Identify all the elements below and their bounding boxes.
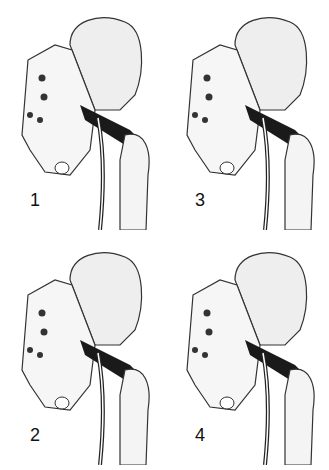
hip-illustration-panel: 1 <box>0 0 160 230</box>
hip-illustration-panel: 4 <box>165 235 325 465</box>
panel-number-label: 1 <box>30 190 40 211</box>
pelvis-drawing <box>165 235 325 465</box>
hip-illustration-panel: 3 <box>165 0 325 230</box>
panel-number-label: 3 <box>195 190 205 211</box>
pelvis-drawing <box>0 0 160 230</box>
hip-illustration-panel: 2 <box>0 235 160 465</box>
pelvis-drawing <box>0 235 160 465</box>
panel-number-label: 2 <box>30 425 40 446</box>
panel-number-label: 4 <box>195 425 205 446</box>
pelvis-drawing <box>165 0 325 230</box>
